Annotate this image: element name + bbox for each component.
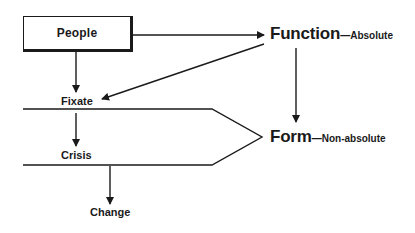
form-node: Form—Non-absolute (270, 127, 386, 147)
function-label: Function (270, 24, 340, 43)
people-label: People (57, 26, 98, 40)
arrow-function-to-fixate (102, 44, 264, 99)
function-suffix: —Absolute (340, 30, 393, 41)
diagram-canvas: People Fixate Crisis Change Function—Abs… (0, 0, 415, 233)
form-suffix: —Non-absolute (312, 133, 386, 144)
crisis-label: Crisis (61, 149, 92, 161)
function-node: Function—Absolute (270, 24, 393, 44)
change-label: Change (90, 206, 130, 218)
pointed-band-shape (23, 109, 262, 165)
form-label: Form (270, 127, 312, 146)
fixate-label: Fixate (61, 95, 93, 107)
people-node: People (23, 16, 133, 52)
